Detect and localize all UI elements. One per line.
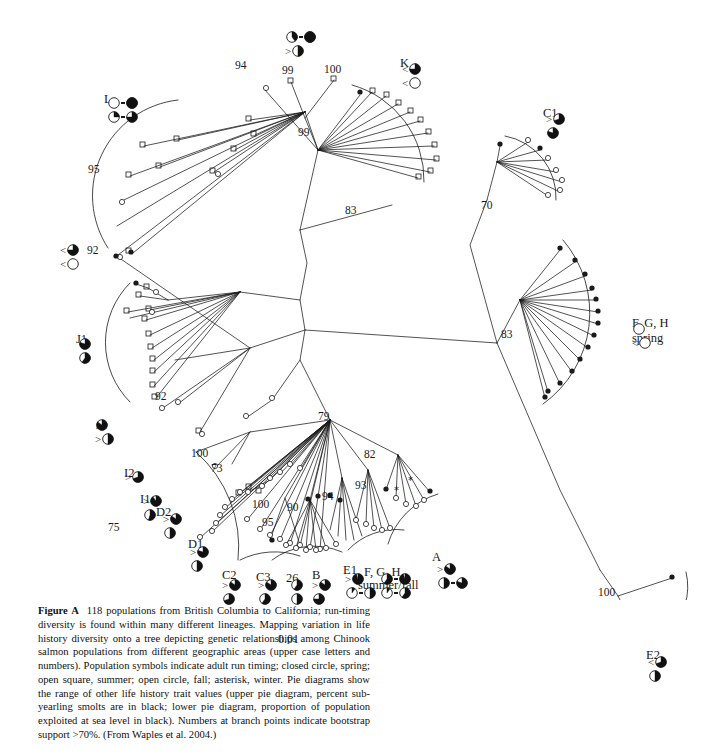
pie-group-f-g-h-spring: < [632, 322, 651, 350]
lower-pie-row [163, 526, 182, 540]
pie-min [132, 471, 144, 483]
pie-group-c1: > [546, 112, 565, 140]
pie-range-operator: > [143, 496, 149, 507]
lower-pie-row [437, 576, 468, 590]
phylogenetic-tree-drawing: * * [0, 0, 718, 600]
pie-min [191, 560, 203, 572]
svg-text:*: * [408, 475, 413, 486]
pie-min [265, 579, 277, 591]
pie-min [292, 45, 304, 57]
upper-pie-row [632, 322, 651, 336]
upper-pie-row: > [222, 578, 241, 592]
pie-min [286, 31, 298, 43]
pie-min [67, 244, 79, 256]
pie-range-dash [394, 592, 398, 593]
pie-range-operator: < [60, 259, 66, 270]
pie-group-l [107, 96, 138, 124]
bootstrap-92a: 92 [87, 244, 99, 256]
pie-max [456, 577, 468, 589]
pie-min [547, 127, 559, 139]
upper-pie-row: > [312, 578, 331, 592]
pie-range-operator: > [163, 514, 169, 525]
bootstrap-83b: 83 [501, 328, 513, 340]
upper-pie-row [285, 30, 316, 44]
pie-max [399, 573, 411, 585]
bootstrap-99b: 99 [298, 126, 310, 138]
lower-pie-row [143, 508, 162, 522]
bootstrap-83a: 83 [345, 204, 357, 216]
upper-pie-row [290, 578, 303, 592]
pie-min [144, 509, 156, 521]
bootstrap-82: 82 [364, 448, 376, 460]
upper-pie-row: > [163, 512, 182, 526]
lower-pie-row [78, 351, 91, 365]
bootstrap-95b: 95 [262, 516, 274, 528]
pie-group-e1: > [345, 572, 376, 600]
bootstrap-100b: 100 [191, 447, 208, 459]
pie-group-f-g-h-summer-fall [380, 572, 411, 600]
pie-range-operator: > [95, 434, 101, 445]
bootstrap-100a: 100 [324, 63, 341, 75]
bootstrap-94b: 94 [322, 490, 334, 502]
bootstrap-73: 73 [211, 462, 223, 474]
pie-min [170, 513, 182, 525]
pie-range-operator: < [632, 338, 638, 349]
bootstrap-93: 93 [355, 479, 367, 491]
upper-pie-row [107, 96, 138, 110]
lower-pie-row [107, 110, 138, 124]
bootstrap-95a: 95 [88, 163, 100, 175]
pie-group-unnamed-1: > [285, 30, 316, 58]
pie-min [79, 338, 91, 350]
upper-pie-row: < [402, 62, 421, 76]
figure-caption: Figure A 118 populations from British Co… [38, 604, 370, 742]
pie-range-operator: > [190, 547, 196, 558]
upper-pie-row: > [125, 470, 144, 484]
pie-group-i1: > [143, 494, 162, 522]
pie-min [633, 323, 645, 335]
bootstrap-99a: 99 [282, 64, 294, 76]
pie-min [229, 579, 241, 591]
upper-pie-row: > [190, 545, 209, 559]
upper-pie-row: > [546, 112, 565, 126]
pie-min [655, 656, 667, 668]
pie-range-operator: > [312, 580, 318, 591]
lower-pie-row: < [632, 336, 651, 350]
pie-min [67, 258, 79, 270]
pie-min [444, 563, 456, 575]
pie-min [79, 352, 91, 364]
bootstrap-100d: 100 [598, 586, 615, 598]
pie-min [438, 577, 450, 589]
pie-range-operator: > [125, 472, 131, 483]
pie-range-dash [121, 102, 125, 103]
pie-group-26 [290, 578, 303, 606]
upper-pie-row [95, 418, 114, 432]
bootstrap-79: 79 [318, 410, 330, 422]
lower-pie-row [345, 586, 376, 600]
bootstrap-100c: 100 [252, 498, 269, 510]
pie-group-e2: < [648, 655, 667, 683]
upper-pie-row [380, 572, 411, 586]
pie-min [381, 587, 393, 599]
pie-min [319, 579, 331, 591]
pie-group-unnamed-4: << [60, 243, 79, 271]
pie-range-operator: > [437, 564, 443, 575]
lower-pie-row [546, 126, 565, 140]
closed-circle-spring [113, 89, 674, 600]
pie-min [150, 495, 162, 507]
lower-pie-row: > [95, 432, 114, 446]
pie-min [164, 527, 176, 539]
bootstrap-75: 75 [108, 521, 120, 533]
upper-pie-row: > [258, 578, 277, 592]
pie-range-operator: > [285, 46, 291, 57]
upper-pie-row: < [648, 655, 667, 669]
pie-min [108, 97, 120, 109]
bootstrap-94: 94 [235, 59, 247, 71]
pie-min [352, 573, 364, 585]
lower-pie-row: < [402, 76, 421, 90]
bootstrap-90: 90 [287, 501, 299, 513]
pie-min [197, 546, 209, 558]
pie-min [639, 337, 651, 349]
pie-range-dash [299, 36, 303, 37]
pie-group-c2: > [222, 578, 241, 606]
pie-group-k: << [402, 62, 421, 90]
